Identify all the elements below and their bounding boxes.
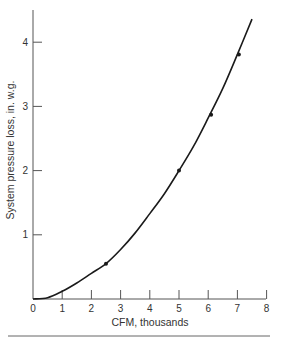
y-tick-label: 4 <box>22 37 28 48</box>
x-ticks: 012345678 <box>30 290 270 314</box>
x-tick-label: 4 <box>147 303 153 314</box>
x-axis-title: CFM, thousands <box>111 316 188 328</box>
x-tick-label: 3 <box>118 303 124 314</box>
x-tick-label: 6 <box>205 303 211 314</box>
data-point-marker <box>237 52 241 56</box>
x-tick-label: 8 <box>264 303 270 314</box>
y-ticks: 1234 <box>22 37 42 241</box>
data-markers <box>104 52 241 265</box>
x-tick-label: 5 <box>176 303 182 314</box>
data-point-marker <box>209 113 213 117</box>
y-tick-label: 1 <box>22 229 28 240</box>
x-tick-label: 1 <box>59 303 65 314</box>
x-tick-label: 0 <box>30 303 36 314</box>
data-point-marker <box>177 169 181 173</box>
chart-canvas: 012345678 1234 CFM, thousands System pre… <box>0 0 281 342</box>
y-tick-label: 3 <box>22 101 28 112</box>
system-curve-line <box>33 19 252 299</box>
x-tick-label: 7 <box>235 303 241 314</box>
x-tick-label: 2 <box>89 303 95 314</box>
data-point-marker <box>104 262 108 266</box>
y-axis-title: System pressure loss, in. w.g. <box>4 81 16 220</box>
y-tick-label: 2 <box>22 165 28 176</box>
